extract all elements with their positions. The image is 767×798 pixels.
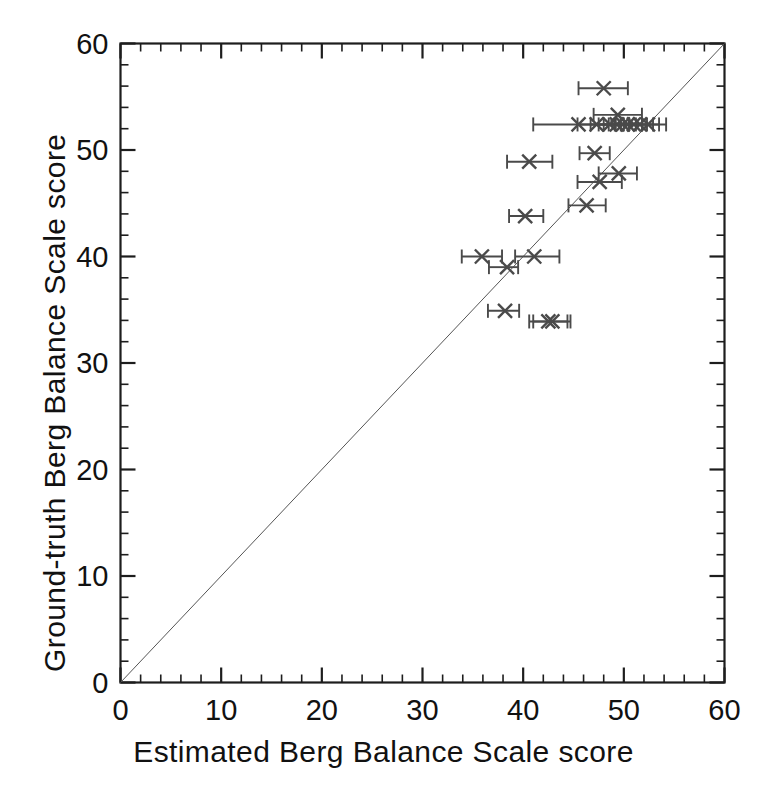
x-tick-label: 10 <box>205 694 237 726</box>
x-tick-label: 40 <box>507 694 539 726</box>
y-tick-label: 40 <box>76 241 108 273</box>
error-bar <box>515 250 559 264</box>
x-tick-label: 60 <box>708 694 740 726</box>
plot-canvas: 0102030405060 0102030405060 <box>0 0 767 798</box>
y-tick-label: 0 <box>92 667 108 699</box>
x-tick-label: 30 <box>406 694 438 726</box>
y-tick-label: 10 <box>76 560 108 592</box>
x-tick-label: 0 <box>112 694 128 726</box>
scatter-plot-figure: 0102030405060 0102030405060 Estimated Be… <box>0 0 767 798</box>
y-tick-label: 30 <box>76 347 108 379</box>
y-axis-tick-labels: 0102030405060 <box>76 28 108 699</box>
y-axis-label: Ground-truth Berg Balance Scale score <box>38 134 72 672</box>
x-tick-label: 50 <box>608 694 640 726</box>
y-axis-label-container: Ground-truth Berg Balance Scale score <box>0 0 50 700</box>
y-tick-label: 20 <box>76 454 108 486</box>
y-tick-label: 50 <box>76 134 108 166</box>
y-tick-label: 60 <box>76 28 108 60</box>
x-axis-label: Estimated Berg Balance Scale score <box>0 735 767 769</box>
identity-reference-line <box>121 44 725 683</box>
x-tick-label: 20 <box>306 694 338 726</box>
data-point-markers <box>475 81 655 328</box>
x-axis-tick-labels: 0102030405060 <box>112 694 740 726</box>
identity-line <box>121 44 725 683</box>
